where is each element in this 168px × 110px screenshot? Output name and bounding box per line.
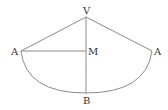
label-b: B [83, 95, 90, 106]
sector-diagram: V A A M B [0, 0, 168, 110]
segment-v-a-left [21, 17, 86, 51]
label-a-right: A [153, 46, 162, 57]
label-m: M [88, 46, 98, 57]
label-v: V [82, 5, 91, 16]
label-a-left: A [10, 46, 19, 57]
